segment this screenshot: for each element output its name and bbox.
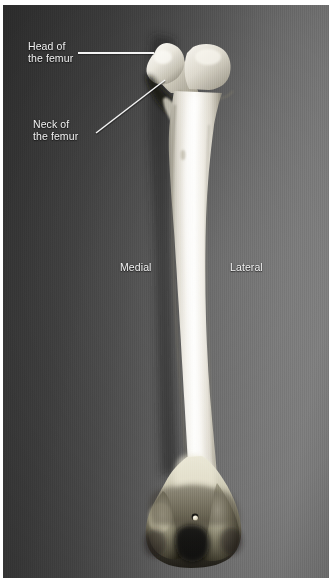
leader-line-neck (91, 77, 169, 139)
greater-trochanter-highlight (195, 49, 221, 65)
label-head-of-the-femur: Head of the femur (28, 40, 73, 64)
leader-line-head (78, 52, 154, 54)
intercondylar-fossa (175, 525, 209, 562)
label-medial: Medial (120, 261, 152, 273)
lateral-epicondyle-shadow (220, 527, 242, 555)
label-lateral: Lateral (230, 261, 263, 273)
femur-head-highlight (154, 50, 172, 64)
nutrient-foramen (181, 150, 186, 160)
label-neck-of-the-femur: Neck of the femur (33, 118, 78, 142)
femur-figure: Head of the femur Neck of the femur Medi… (0, 0, 329, 588)
marker-hole (193, 515, 198, 520)
medial-epicondyle-shadow (144, 529, 166, 557)
photograph-plate: Head of the femur Neck of the femur Medi… (3, 5, 329, 578)
